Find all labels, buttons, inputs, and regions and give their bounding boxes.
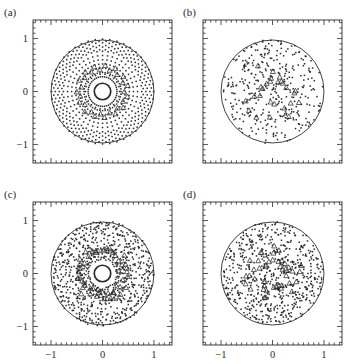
figure-four-panel-scatter: (a) 10−1 (b) (c) −10110−1 (d) −101 <box>0 0 363 364</box>
svg-text:−1: −1 <box>45 349 56 360</box>
panel-d: (d) −101 <box>181 182 362 364</box>
svg-text:0: 0 <box>270 349 275 360</box>
plot-area-c: −10110−1 <box>0 182 181 364</box>
svg-text:0: 0 <box>23 86 28 97</box>
svg-text:1: 1 <box>23 215 28 226</box>
svg-text:1: 1 <box>23 33 28 44</box>
svg-text:0: 0 <box>23 268 28 279</box>
svg-text:0: 0 <box>100 349 105 360</box>
svg-text:1: 1 <box>321 349 326 360</box>
plot-area-a: 10−1 <box>0 0 181 182</box>
svg-text:−1: −1 <box>17 321 28 332</box>
panel-b: (b) <box>181 0 362 182</box>
panel-a: (a) 10−1 <box>0 0 181 182</box>
svg-text:−1: −1 <box>17 139 28 150</box>
svg-text:1: 1 <box>151 349 156 360</box>
svg-text:−1: −1 <box>215 349 226 360</box>
plot-area-b <box>181 0 362 182</box>
plot-area-d: −101 <box>181 182 362 364</box>
panel-c: (c) −10110−1 <box>0 182 181 364</box>
